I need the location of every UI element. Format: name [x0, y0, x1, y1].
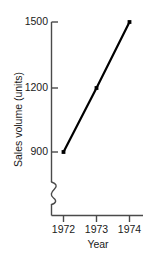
data-point-marker — [62, 150, 66, 154]
x-axis-title: Year — [76, 239, 120, 250]
x-tick-label-1974: 1974 — [110, 224, 149, 235]
data-point-marker — [95, 86, 99, 90]
chart-figure: 1500 1200 900 1972 1973 1974 Sales volum… — [0, 0, 148, 255]
data-point-marker — [128, 20, 132, 24]
y-axis-break-squiggle — [51, 182, 56, 205]
y-tick-label-1500: 1500 — [14, 16, 48, 27]
y-axis-title: Sales volume (units) — [13, 72, 24, 167]
